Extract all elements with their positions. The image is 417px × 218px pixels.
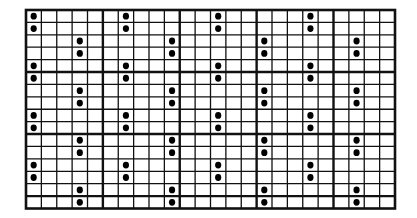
grid-dot [307, 13, 313, 20]
grid-dot [77, 100, 83, 107]
grid-dot [31, 112, 37, 119]
grid-dot [31, 174, 37, 181]
grid-dot [31, 62, 37, 69]
grid-dot [215, 13, 221, 20]
grid-dot [353, 87, 359, 94]
grid-dot [307, 162, 313, 169]
grid-dot [215, 25, 221, 32]
grid-dot [353, 100, 359, 107]
grid-dot [353, 50, 359, 57]
grid-dot [169, 100, 175, 107]
grid-dot [215, 62, 221, 69]
grid-dot [307, 62, 313, 69]
grid-dot [261, 149, 267, 156]
grid-dot [123, 112, 129, 119]
grid-dot [123, 75, 129, 82]
grid-dot [215, 75, 221, 82]
grid-dot [353, 149, 359, 156]
grid-dot [123, 13, 129, 20]
grid-dot [215, 112, 221, 119]
grid-dot [215, 124, 221, 131]
grid-dot [353, 186, 359, 193]
grid-dot [353, 199, 359, 206]
grid-dot [123, 25, 129, 32]
grid-dot [169, 50, 175, 57]
grid-dot [77, 137, 83, 144]
grid-dot [169, 137, 175, 144]
grid-dot [353, 38, 359, 45]
dot-grid-diagram [0, 0, 417, 218]
grid-dot [123, 62, 129, 69]
grid-dot [307, 75, 313, 82]
grid-dot [31, 124, 37, 131]
grid-dot [261, 50, 267, 57]
grid-dot [215, 174, 221, 181]
grid-dot [77, 38, 83, 45]
grid-dot [261, 100, 267, 107]
grid-dot [123, 162, 129, 169]
grid-dot [169, 149, 175, 156]
grid-dot [261, 87, 267, 94]
grid-dot [261, 186, 267, 193]
grid-dot [77, 186, 83, 193]
grid-dot [307, 112, 313, 119]
grid-dot [169, 38, 175, 45]
grid-dot [123, 174, 129, 181]
grid-dot [169, 87, 175, 94]
grid-dot [77, 87, 83, 94]
grid-dot [77, 199, 83, 206]
grid-dot [169, 186, 175, 193]
grid-dot [261, 199, 267, 206]
grid-dot [307, 25, 313, 32]
grid-dot [215, 162, 221, 169]
grid-dot [261, 137, 267, 144]
grid-dot [31, 75, 37, 82]
grid-dot [307, 174, 313, 181]
grid-dot [31, 162, 37, 169]
grid-dot [353, 137, 359, 144]
grid-dot [77, 50, 83, 57]
grid-dot [261, 38, 267, 45]
grid-dot [169, 199, 175, 206]
grid-dot [123, 124, 129, 131]
grid-dot [31, 25, 37, 32]
grid-dot [307, 124, 313, 131]
grid-dot [77, 149, 83, 156]
grid-dot [31, 13, 37, 20]
